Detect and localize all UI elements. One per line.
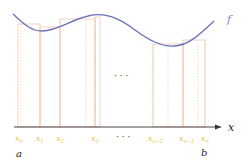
rectangle-4	[95, 17, 100, 127]
svg-text:x3: x3	[91, 134, 99, 144]
function-label: f	[226, 13, 233, 26]
svg-text:xn−2: xn−2	[148, 134, 163, 144]
x-axis-arrow-icon	[215, 125, 222, 130]
interval-start-label: a	[16, 148, 22, 159]
function-curve	[13, 14, 214, 46]
svg-text:x1: x1	[36, 134, 44, 144]
riemann-rectangles	[18, 17, 205, 127]
svg-text:xn: xn	[201, 134, 209, 144]
interval-end-label: b	[201, 147, 207, 158]
partition-labels: x0 x1 x2 x3 xn−2 xn−1 xn	[15, 134, 209, 144]
riemann-sum-diagram: f x · · · · · · x0 x1 x2 x3 xn−2 xn−1 xn…	[0, 0, 249, 166]
svg-text:x2: x2	[56, 134, 64, 144]
label-ellipsis: · · ·	[116, 132, 130, 142]
rectangle-3	[60, 19, 95, 127]
middle-ellipsis: · · ·	[114, 71, 128, 81]
svg-text:xn−1: xn−1	[179, 134, 194, 144]
rectangle-n	[183, 40, 205, 127]
partition-lines	[21, 17, 205, 127]
x-axis-label: x	[228, 121, 235, 134]
svg-text:x0: x0	[15, 134, 24, 144]
rectangle-2	[40, 27, 60, 127]
